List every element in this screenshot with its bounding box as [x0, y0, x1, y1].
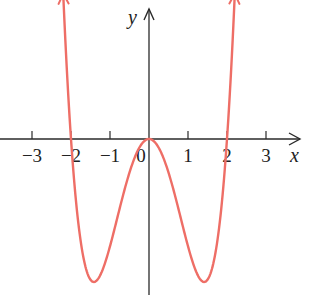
x-tick-label: −1 — [100, 145, 120, 166]
x-tick-label: 3 — [261, 145, 271, 166]
axes — [0, 9, 300, 295]
x-tick-label: 1 — [183, 145, 193, 166]
x-tick-label: 0 — [136, 145, 146, 166]
x-tick-label: −3 — [22, 145, 42, 166]
x-axis-label: x — [289, 144, 299, 166]
function-graph: −3−2−10123 x y — [0, 0, 317, 295]
y-axis-label: y — [126, 6, 137, 29]
x-tick-labels: −3−2−10123 — [22, 145, 271, 166]
